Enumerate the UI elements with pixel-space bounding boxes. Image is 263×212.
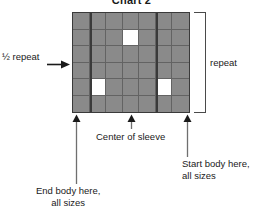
repeat-label: repeat — [210, 57, 237, 68]
end-body-label: End body here, all sizes — [36, 185, 100, 208]
chart-cell-r6-c7 — [172, 96, 189, 113]
chart-cell-r5-c7 — [172, 79, 189, 96]
chart-cell-r6-c2 — [90, 96, 107, 113]
chart-cell-r4-c7 — [172, 63, 189, 80]
chart-cell-r3-c1 — [73, 46, 90, 63]
chart-cell-r6-c3 — [106, 96, 123, 113]
chart-cell-r4-c3 — [106, 63, 123, 80]
chart-cell-r4-c5 — [139, 63, 156, 80]
chart-cell-r2-c5 — [139, 30, 156, 47]
chart-cell-r4-c1 — [73, 63, 90, 80]
half-repeat-label: ½ repeat — [2, 51, 40, 62]
chart-cell-r5-c6 — [156, 79, 173, 96]
chart-cell-r2-c3 — [106, 30, 123, 47]
chart-cell-r6-c6 — [156, 96, 173, 113]
chart-cell-r6-c1 — [73, 96, 90, 113]
chart-cell-r4-c6 — [156, 63, 173, 80]
section-divider-1 — [90, 13, 92, 112]
arrow-up-icon-end-body — [72, 114, 81, 186]
chart-cell-r3-c6 — [156, 46, 173, 63]
page-title: Chart 2 — [0, 0, 263, 6]
chart-cell-r2-c7 — [172, 30, 189, 47]
arrow-right-icon — [47, 55, 71, 64]
chart-cell-r1-c6 — [156, 13, 173, 30]
chart-cell-r6-c4 — [123, 96, 140, 113]
chart-cell-r5-c5 — [139, 79, 156, 96]
chart-cell-r3-c7 — [172, 46, 189, 63]
chart-cell-r5-c2 — [90, 79, 107, 96]
chart-cell-r4-c2 — [90, 63, 107, 80]
chart-cell-r4-c4 — [123, 63, 140, 80]
arrow-up-icon-start-body — [183, 114, 192, 159]
chart-figure: Chart 2 ½ repeat repeat — [0, 0, 263, 212]
chart-cell-r2-c4 — [123, 30, 140, 47]
chart-cell-r2-c2 — [90, 30, 107, 47]
chart-cell-r5-c3 — [106, 79, 123, 96]
chart-cell-r3-c2 — [90, 46, 107, 63]
start-body-label: Start body here, all sizes — [182, 158, 250, 181]
chart-cell-r1-c2 — [90, 13, 107, 30]
chart-cell-r1-c5 — [139, 13, 156, 30]
chart-cell-r5-c1 — [73, 79, 90, 96]
chart-cell-r3-c5 — [139, 46, 156, 63]
chart-cell-r2-c6 — [156, 30, 173, 47]
end-body-line1: End body here, — [36, 185, 100, 196]
chart-cell-r1-c3 — [106, 13, 123, 30]
chart-cell-r5-c4 — [123, 79, 140, 96]
chart-cell-r1-c4 — [123, 13, 140, 30]
start-body-line2: all sizes — [182, 170, 250, 182]
end-body-line2: all sizes — [36, 197, 100, 209]
chart-cell-r2-c1 — [73, 30, 90, 47]
chart-cell-r3-c3 — [106, 46, 123, 63]
center-of-sleeve-label: Center of sleeve — [96, 131, 165, 143]
start-body-line1: Start body here, — [182, 158, 250, 169]
chart-cell-r1-c7 — [172, 13, 189, 30]
chart-cell-r1-c1 — [73, 13, 90, 30]
arrow-up-icon-center-sleeve — [127, 114, 136, 130]
stitch-chart-grid — [72, 12, 190, 113]
chart-cell-r6-c5 — [139, 96, 156, 113]
repeat-bracket — [194, 12, 206, 113]
chart-cell-r3-c4 — [123, 46, 140, 63]
section-divider-2 — [156, 13, 158, 112]
